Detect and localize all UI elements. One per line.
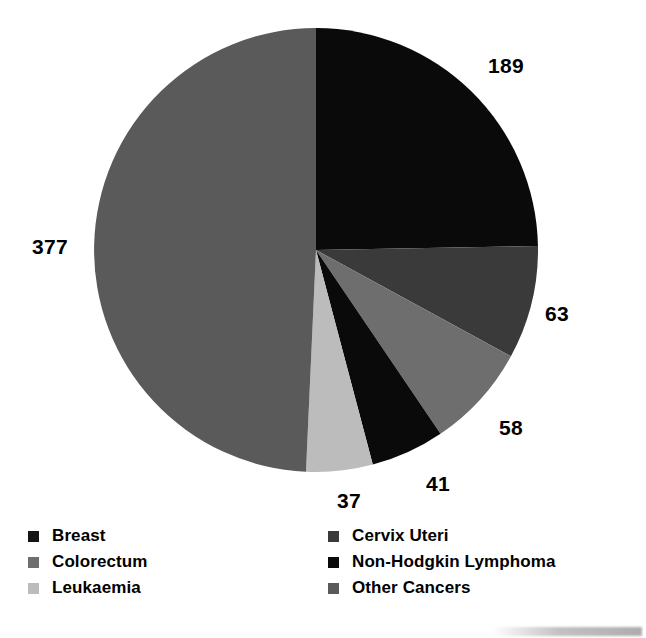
scan-smudge [492, 627, 642, 636]
legend-item-other-cancers[interactable]: Other Cancers [328, 576, 555, 600]
legend-column-right: Cervix UteriNon-Hodgkin LymphomaOther Ca… [328, 524, 555, 602]
pie-slice-group [94, 28, 538, 472]
legend-column-left: BreastColorectumLeukaemia [28, 524, 147, 602]
legend-item-breast[interactable]: Breast [28, 524, 147, 548]
pie-value-label-58: 58 [499, 417, 523, 438]
legend-swatch-other-cancers [328, 583, 339, 594]
legend-label: Other Cancers [352, 578, 470, 598]
legend-swatch-breast [28, 531, 39, 542]
chart-legend: BreastColorectumLeukaemia Cervix UteriNo… [0, 524, 646, 614]
pie-value-label-189: 189 [488, 55, 524, 76]
legend-item-leukaemia[interactable]: Leukaemia [28, 576, 147, 600]
legend-swatch-colorectum [28, 557, 39, 568]
pie-chart-figure: 18963584137377 [0, 0, 646, 510]
pie-slice-other-cancers[interactable] [94, 28, 316, 472]
legend-label: Non-Hodgkin Lymphoma [352, 552, 555, 572]
pie-chart-svg [0, 0, 646, 510]
legend-item-cervix-uteri[interactable]: Cervix Uteri [328, 524, 555, 548]
legend-item-colorectum[interactable]: Colorectum [28, 550, 147, 574]
legend-label: Cervix Uteri [352, 526, 449, 546]
legend-label: Colorectum [52, 552, 147, 572]
scan-edge-artifact [446, 616, 646, 638]
pie-value-label-63: 63 [545, 303, 569, 324]
pie-value-label-41: 41 [426, 473, 450, 494]
legend-swatch-non-hodgkin-lymphoma [328, 557, 339, 568]
legend-swatch-leukaemia [28, 583, 39, 594]
legend-swatch-cervix-uteri [328, 531, 339, 542]
pie-value-label-377: 377 [32, 236, 68, 257]
legend-label: Leukaemia [52, 578, 141, 598]
legend-item-non-hodgkin-lymphoma[interactable]: Non-Hodgkin Lymphoma [328, 550, 555, 574]
legend-label: Breast [52, 526, 106, 546]
pie-value-label-37: 37 [337, 490, 361, 511]
